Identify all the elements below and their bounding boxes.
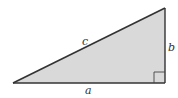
right-triangle-diagram: c b a [0,0,178,98]
label-c: c [82,35,88,48]
label-b: b [168,41,175,54]
label-a: a [85,84,92,97]
